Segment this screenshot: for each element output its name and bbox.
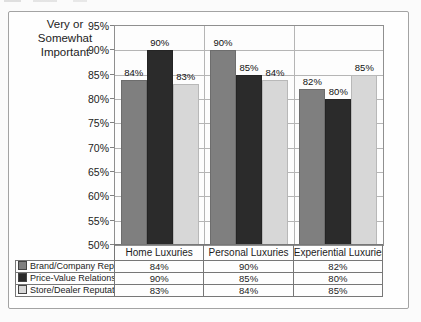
legend-cell: Brand/Company Reputation (16, 261, 115, 273)
category-gridline (204, 26, 205, 245)
bar-value-label: 90% (200, 38, 246, 48)
data-table: Home LuxuriesPersonal LuxuriesExperienti… (15, 244, 383, 297)
value-cell: 84% (115, 261, 204, 273)
table-row: Price-Value Relationship90%85%80% (16, 273, 383, 285)
legend-label: Price-Value Relationship (30, 273, 115, 283)
bar-2-cat-2 (236, 75, 262, 245)
category-gridline (294, 26, 295, 245)
table-row: Brand/Company Reputation84%90%82% (16, 261, 383, 273)
legend-swatch-icon (18, 273, 27, 282)
table-corner-blank (16, 245, 115, 261)
category-label: Personal Luxuries (204, 245, 293, 261)
value-cell: 82% (293, 261, 382, 273)
bar-1-cat-2 (210, 50, 236, 245)
bar-value-label: 83% (163, 72, 209, 82)
legend-swatch-icon (18, 285, 27, 294)
value-cell: 80% (293, 273, 382, 285)
table-row: Store/Dealer Reputation83%84%85% (16, 285, 383, 297)
y-tick-label: 55% (73, 215, 109, 227)
bar-3-cat-3 (351, 75, 377, 245)
legend-cell: Store/Dealer Reputation (16, 285, 115, 297)
y-tick-label: 70% (73, 142, 109, 154)
legend-cell: Price-Value Relationship (16, 273, 115, 285)
y-tick-label: 95% (73, 20, 109, 32)
figure-frame: Very or Somewhat Important 95%90%85%80%7… (8, 11, 409, 309)
y-tick-label: 75% (73, 117, 109, 129)
value-cell: 85% (293, 285, 382, 297)
bar-1-cat-3 (299, 89, 325, 245)
value-cell: 83% (115, 285, 204, 297)
value-cell: 90% (204, 261, 293, 273)
legend-label: Store/Dealer Reputation (30, 285, 115, 295)
bar-3-cat-1 (173, 84, 199, 245)
value-cell: 84% (204, 285, 293, 297)
bar-2-cat-3 (325, 99, 351, 245)
value-cell: 90% (115, 273, 204, 285)
legend-label: Brand/Company Reputation (30, 261, 115, 271)
legend-swatch-icon (18, 261, 27, 270)
bar-1-cat-1 (121, 80, 147, 245)
bar-value-label: 85% (341, 63, 387, 73)
y-tick-label: 80% (73, 93, 109, 105)
y-tick-label: 90% (73, 44, 109, 56)
category-label: Experiential Luxuries (293, 245, 382, 261)
bar-value-label: 84% (252, 68, 298, 78)
y-tick-label: 65% (73, 166, 109, 178)
bar-3-cat-2 (262, 80, 288, 245)
category-label: Home Luxuries (115, 245, 204, 261)
y-tick-label: 60% (73, 190, 109, 202)
plot-area: 84%90%83%90%85%84%82%80%85% (114, 25, 384, 246)
page-crop-artifact (4, 0, 100, 2)
y-tick-label: 85% (73, 69, 109, 81)
bar-value-label: 90% (137, 38, 183, 48)
value-cell: 85% (204, 273, 293, 285)
